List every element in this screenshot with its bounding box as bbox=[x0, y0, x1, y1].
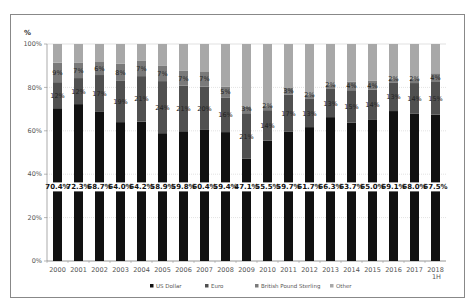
gbp-value-label: 4% bbox=[367, 82, 377, 90]
x-tick-label: 2007 bbox=[196, 266, 213, 274]
euro-value-label: 17% bbox=[281, 110, 295, 118]
euro-value-label: 12% bbox=[71, 88, 85, 96]
bar-segment-other bbox=[221, 44, 230, 87]
bar-segment-us-dollar bbox=[284, 131, 293, 261]
x-tick-label: 2015 bbox=[364, 266, 381, 274]
x-tick-label: 2014 bbox=[343, 266, 360, 274]
legend-item-label: British Pound Sterling bbox=[261, 283, 320, 290]
bar-segment-other bbox=[347, 44, 356, 82]
bar-segment-other bbox=[95, 44, 104, 62]
euro-value-label: 21% bbox=[239, 133, 253, 141]
gbp-value-label: 4% bbox=[430, 74, 440, 82]
bar-segment-other bbox=[263, 44, 272, 106]
euro-value-label: 16% bbox=[218, 111, 232, 119]
x-tick-label: 2016 bbox=[385, 266, 402, 274]
euro-value-label: 17% bbox=[92, 90, 106, 98]
gbp-value-label: 3% bbox=[241, 105, 251, 113]
x-tick-label: 2008 bbox=[217, 266, 234, 274]
euro-value-label: 14% bbox=[260, 122, 274, 130]
euro-value-label: 13% bbox=[386, 93, 400, 101]
gbp-value-label: 3% bbox=[283, 87, 293, 95]
gbp-value-label: 2% bbox=[388, 75, 398, 83]
bar-segment-us-dollar bbox=[263, 141, 272, 261]
gbp-value-label: 2% bbox=[325, 81, 335, 89]
x-tick-label: 2006 bbox=[175, 266, 192, 274]
euro-value-label: 21% bbox=[176, 105, 190, 113]
euro-value-label: 15% bbox=[428, 95, 442, 103]
bar-segment-other bbox=[53, 44, 62, 63]
legend-item-label: Other bbox=[336, 283, 352, 289]
bar-segment-us-dollar bbox=[221, 132, 230, 261]
euro-value-label: 14% bbox=[407, 95, 421, 103]
x-tick-label: 2004 bbox=[133, 266, 150, 274]
legend-swatch bbox=[150, 284, 154, 288]
gbp-value-label: 7% bbox=[136, 65, 146, 73]
bar-segment-us-dollar bbox=[200, 130, 209, 261]
euro-value-label: 19% bbox=[113, 98, 127, 106]
bar-segment-other bbox=[137, 44, 146, 61]
y-tick-label: 60% bbox=[28, 127, 42, 135]
bar-segment-other bbox=[179, 44, 188, 70]
gbp-value-label: 2% bbox=[262, 102, 272, 110]
euro-value-label: 15% bbox=[344, 103, 358, 111]
x-tick-label: 2005 bbox=[154, 266, 171, 274]
euro-value-label: 20% bbox=[197, 105, 211, 113]
x-tick-label: 2000 bbox=[49, 266, 66, 274]
x-tick-label: 2010 bbox=[259, 266, 276, 274]
y-tick-label: 100% bbox=[23, 40, 42, 48]
gbp-value-label: 9% bbox=[52, 69, 62, 77]
bar-segment-other bbox=[410, 44, 419, 79]
x-tick-label: 2009 bbox=[238, 266, 255, 274]
bar-segment-us-dollar bbox=[347, 123, 356, 261]
bar-segment-other bbox=[200, 44, 209, 71]
euro-value-label: 21% bbox=[134, 95, 148, 103]
bar-segment-us-dollar bbox=[305, 127, 314, 261]
gbp-value-label: 2% bbox=[304, 91, 314, 99]
x-tick-label: 2003 bbox=[112, 266, 129, 274]
euro-value-label: 13% bbox=[323, 100, 337, 108]
legend-swatch bbox=[205, 284, 209, 288]
x-tick-label: 2001 bbox=[70, 266, 87, 274]
gbp-value-label: 6% bbox=[94, 65, 104, 73]
bar-segment-us-dollar bbox=[158, 133, 167, 261]
x-tick-label-sub: 1H bbox=[432, 273, 441, 281]
bar-segment-us-dollar bbox=[179, 131, 188, 261]
y-axis-label: % bbox=[24, 29, 31, 37]
bar-segment-us-dollar bbox=[116, 122, 125, 261]
bar-segment-other bbox=[158, 44, 167, 66]
euro-value-label: 24% bbox=[155, 104, 169, 112]
bar-segment-other bbox=[431, 44, 440, 73]
x-tick-label: 2012 bbox=[301, 266, 318, 274]
bar-segment-other bbox=[368, 44, 377, 81]
gbp-value-label: 2% bbox=[409, 75, 419, 83]
gbp-value-label: 7% bbox=[73, 67, 83, 75]
gbp-value-label: 4% bbox=[346, 82, 356, 90]
bar-segment-other bbox=[242, 44, 251, 107]
gbp-value-label: 7% bbox=[157, 70, 167, 78]
legend-swatch bbox=[330, 284, 334, 288]
euro-value-label: 13% bbox=[302, 110, 316, 118]
x-tick-label: 2011 bbox=[280, 266, 297, 274]
bar-segment-other bbox=[389, 44, 398, 79]
bar-segment-other bbox=[74, 44, 83, 63]
bar-segment-other bbox=[326, 44, 335, 85]
bar-segment-other bbox=[284, 44, 293, 88]
y-tick-label: 0% bbox=[32, 257, 42, 265]
gbp-value-label: 5% bbox=[220, 88, 230, 96]
bar-segment-other bbox=[116, 44, 125, 64]
gbp-value-label: 7% bbox=[199, 75, 209, 83]
legend-item-label: US Dollar bbox=[156, 283, 182, 289]
gbp-value-label: 8% bbox=[115, 69, 125, 77]
euro-value-label: 14% bbox=[365, 101, 379, 109]
bar-segment-other bbox=[305, 44, 314, 95]
x-tick-label: 2017 bbox=[406, 266, 423, 274]
euro-value-label: 12% bbox=[50, 92, 64, 100]
y-tick-label: 40% bbox=[28, 170, 42, 178]
gbp-value-label: 7% bbox=[178, 75, 188, 83]
x-tick-label: 2013 bbox=[322, 266, 339, 274]
legend-swatch bbox=[255, 284, 259, 288]
x-tick-label: 2002 bbox=[91, 266, 108, 274]
bar-segment-us-dollar bbox=[242, 159, 251, 261]
y-tick-label: 20% bbox=[28, 214, 42, 222]
usd-value-label: 67.5% bbox=[423, 183, 447, 191]
